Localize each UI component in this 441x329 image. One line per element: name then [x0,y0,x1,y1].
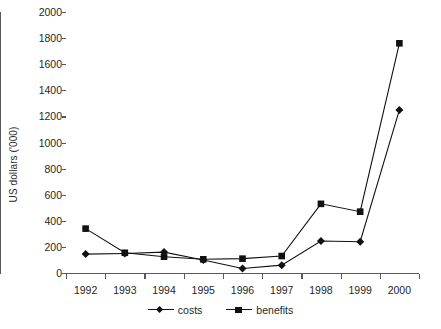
data-point-benefits-1992[interactable] [82,225,89,232]
legend-label-costs: costs [178,304,203,316]
legend-label-benefits: benefits [256,304,293,316]
data-point-benefits-1998[interactable] [318,201,325,208]
data-point-benefits-2000[interactable] [396,40,403,47]
data-point-benefits-1996[interactable] [239,255,246,262]
data-point-costs-1992[interactable] [82,250,90,258]
series-layer [0,0,441,329]
line-chart: US dollars ('000) 0200400600800100012001… [0,0,441,329]
legend-entry-costs[interactable]: costs [148,304,203,316]
data-point-benefits-1993[interactable] [122,249,129,256]
data-point-benefits-1997[interactable] [278,253,285,260]
data-point-costs-1999[interactable] [356,238,364,246]
data-point-costs-1997[interactable] [278,261,286,269]
data-point-benefits-1999[interactable] [357,208,364,215]
data-point-costs-1996[interactable] [239,264,247,272]
data-point-benefits-1995[interactable] [200,256,207,263]
data-point-costs-2000[interactable] [395,106,403,114]
square-marker-icon [226,305,252,315]
data-point-costs-1998[interactable] [317,237,325,245]
legend: costs benefits [0,304,441,316]
data-point-benefits-1994[interactable] [161,253,168,260]
series-line-costs [86,110,400,269]
diamond-marker-icon [148,305,174,315]
series-line-benefits [86,43,400,259]
legend-entry-benefits[interactable]: benefits [226,304,293,316]
